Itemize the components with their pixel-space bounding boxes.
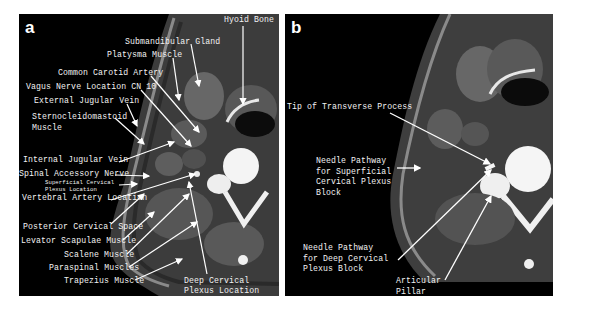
label-submandibular-gland: Submandibular Gland [125, 38, 220, 46]
label-spinal-accessory-nerve: Spinal Accessory Nerve [19, 170, 129, 178]
label-vertebral-artery: Vertebral Artery Location [22, 194, 147, 202]
panel-a-ct-image: a Hyoid Bone Submandibular Gland Platysm… [19, 14, 279, 296]
label-tip-transverse-process: Tip of Transverse Process [287, 103, 412, 111]
label-vagus-nerve: Vagus Nerve Location CN 10 [26, 83, 156, 91]
panel-b-ct-image: b Tip of Transverse Process Needle Pathw… [285, 14, 553, 296]
label-common-carotid-artery: Common Carotid Artery [58, 69, 163, 77]
label-scalene-muscle: Scalene Muscle [64, 251, 134, 259]
label-platysma-muscle: Platysma Muscle [107, 51, 182, 59]
label-external-jugular-vein: External Jugular Vein [34, 97, 139, 105]
label-needle-deep: Needle Pathway for Deep Cervical Plexus … [303, 243, 388, 275]
label-paraspinal-muscles: Paraspinal Muscles [49, 264, 139, 272]
label-articular-pillar: Articular Pillar [396, 276, 441, 296]
label-internal-jugular-vein: Internal Jugular Vein [23, 156, 128, 164]
label-posterior-cervical-space: Posterior Cervical Space [23, 223, 143, 231]
label-deep-cervical-plexus: Deep Cervical Plexus Location [184, 276, 259, 296]
panel-letter-a: a [25, 18, 34, 38]
label-sternocleidomastoid: Sternocleidomastoid Muscle [32, 112, 127, 133]
label-needle-superficial: Needle Pathway for Superficial Cervical … [316, 156, 391, 198]
panel-letter-b: b [291, 18, 301, 38]
label-levator-scapulae: Levator Scapulae Muscle [21, 237, 136, 245]
label-superficial-cervical-plexus: Superficial Cervical Plexus Location [45, 180, 114, 193]
label-trapezius-muscle: Trapezius Muscle [64, 277, 144, 285]
label-hyoid-bone: Hyoid Bone [224, 16, 274, 24]
